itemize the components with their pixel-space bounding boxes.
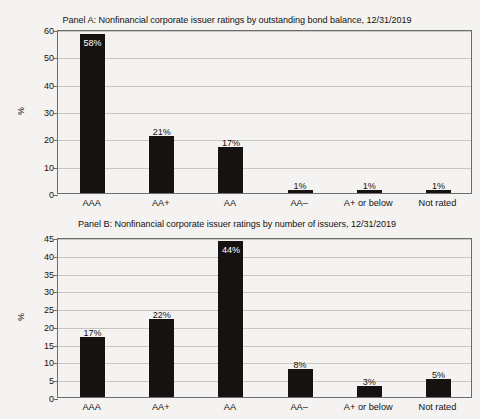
bar-value-label: 22%	[139, 310, 185, 320]
y-axis-tick-mark	[54, 346, 59, 347]
bar-value-label: 3%	[346, 377, 392, 387]
bar-value-label: 58%	[70, 38, 116, 48]
y-axis-tick-label: 35	[24, 270, 54, 279]
panel-a: Panel A: Nonfinancial corporate issuer r…	[0, 0, 480, 210]
panel-a-title: Panel A: Nonfinancial corporate issuer r…	[0, 14, 474, 26]
y-axis-tick-label: 45	[24, 235, 54, 244]
bar	[80, 337, 105, 397]
y-axis-tick-mark	[54, 168, 59, 169]
y-axis-tick-label: 20	[24, 136, 54, 145]
y-axis-tick-label: 40	[24, 81, 54, 90]
gridline	[58, 275, 471, 276]
y-axis-tick-mark	[54, 292, 59, 293]
y-axis-tick-label: 30	[24, 109, 54, 118]
panel-b-plot-area: 05101520253035404517%22%44%8%3%5%	[57, 238, 472, 398]
y-axis-tick-mark	[54, 381, 59, 382]
bar-value-label: 1%	[346, 181, 392, 191]
gridline	[58, 257, 471, 258]
bar	[218, 241, 243, 397]
y-axis-tick-mark	[54, 86, 59, 87]
gridline	[58, 239, 471, 240]
bar-value-label: 1%	[277, 181, 323, 191]
y-axis-tick-mark	[54, 310, 59, 311]
bar-value-label: 21%	[139, 127, 185, 137]
panel-b-title: Panel B: Nonfinancial corporate issuer r…	[0, 218, 474, 230]
gridline	[58, 328, 471, 329]
y-axis-tick-mark	[54, 140, 59, 141]
y-axis-tick-mark	[54, 31, 59, 32]
y-axis-tick-mark	[54, 113, 59, 114]
bar	[288, 369, 313, 397]
bar	[218, 147, 243, 193]
gridline	[58, 346, 471, 347]
bar-value-label: 8%	[277, 360, 323, 370]
y-axis-tick-label: 50	[24, 54, 54, 63]
y-axis-tick-label: 60	[24, 27, 54, 36]
y-axis-tick-mark	[54, 275, 59, 276]
y-axis-tick-mark	[54, 58, 59, 59]
bar	[149, 319, 174, 397]
gridline	[58, 31, 471, 32]
gridline	[58, 140, 471, 141]
y-axis-tick-label: 15	[24, 341, 54, 350]
gridline	[58, 381, 471, 382]
y-axis-tick-mark	[54, 399, 59, 400]
x-axis-category-label: Not rated	[394, 402, 480, 413]
y-axis-tick-label: 10	[24, 359, 54, 368]
bar	[357, 386, 382, 397]
y-axis-tick-label: 30	[24, 288, 54, 297]
bar-value-label: 44%	[208, 245, 254, 255]
y-axis-tick-label: 25	[24, 306, 54, 315]
y-axis-tick-label: 5	[24, 377, 54, 386]
gridline	[58, 113, 471, 114]
y-axis-tick-label: 40	[24, 252, 54, 261]
gridline	[58, 168, 471, 169]
y-axis-tick-label: 10	[24, 163, 54, 172]
panel-a-plot-area: 010203040506058%21%17%1%1%1%	[57, 30, 472, 194]
figure-two-panel-bar-chart: Panel A: Nonfinancial corporate issuer r…	[0, 0, 480, 419]
y-axis-tick-mark	[54, 328, 59, 329]
gridline	[58, 363, 471, 364]
bar-value-label: 1%	[415, 181, 461, 191]
bar	[426, 379, 451, 397]
panel-b: Panel B: Nonfinancial corporate issuer r…	[0, 210, 480, 419]
gridline	[58, 58, 471, 59]
bar-value-label: 17%	[70, 328, 116, 338]
bar-value-label: 17%	[208, 138, 254, 148]
y-axis-tick-mark	[54, 363, 59, 364]
bar	[149, 136, 174, 193]
gridline	[58, 292, 471, 293]
gridline	[58, 310, 471, 311]
y-axis-tick-label: 20	[24, 323, 54, 332]
y-axis-tick-mark	[54, 239, 59, 240]
gridline	[58, 86, 471, 87]
y-axis-tick-mark	[54, 257, 59, 258]
bar-value-label: 5%	[415, 370, 461, 380]
x-axis-category-label: Not rated	[394, 198, 480, 209]
y-axis-tick-mark	[54, 195, 59, 196]
bar	[80, 34, 105, 193]
